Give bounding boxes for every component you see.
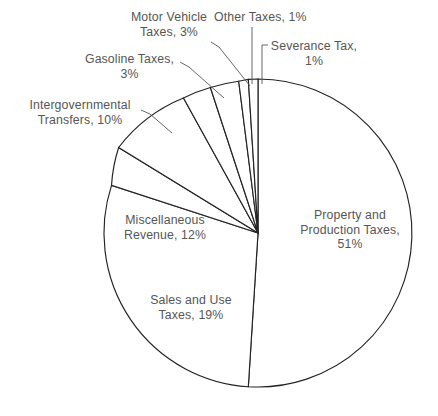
pie-label-severance-tax: Severance Tax, 1% [262,39,366,68]
leader-line-motor-vehicle-taxes [211,42,250,86]
pie-label-sales-and-use-taxes: Sales and Use Taxes, 19% [141,293,241,322]
pie-label-other-taxes: Other Taxes, 1% [214,10,330,25]
pie-label-miscellaneous-revenue: Miscellaneous Revenue, 12% [113,213,217,242]
pie-label-intergovernmental-transfers: Intergovernmental Transfers, 10% [10,98,150,127]
pie-label-property-and-production-taxes: Property and Production Taxes, 51% [295,208,405,252]
pie-label-gasoline-taxes: Gasoline Taxes, 3% [74,52,185,81]
pie-chart-figure: Motor Vehicle Taxes, 3% Other Taxes, 1% … [0,0,438,416]
pie-label-motor-vehicle-taxes: Motor Vehicle Taxes, 3% [119,10,219,39]
